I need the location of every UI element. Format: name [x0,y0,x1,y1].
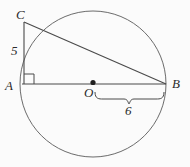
label-length-ca: 5 [11,44,18,57]
segment-cb [24,22,166,84]
right-angle-marker [24,74,34,84]
label-point-c: C [16,8,25,21]
geometry-canvas [0,0,190,167]
label-point-o: O [84,86,93,99]
label-point-b: B [172,77,180,90]
label-point-a: A [5,79,13,92]
label-length-ob: 6 [125,104,132,117]
geometry-figure: C A O B 5 6 [0,0,190,167]
